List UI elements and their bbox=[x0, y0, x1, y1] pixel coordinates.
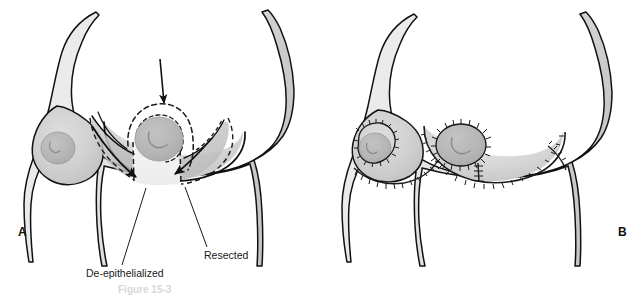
annotation-resected: Resected bbox=[204, 249, 249, 261]
annotation-de-epithelialized: De-epithelialized bbox=[86, 267, 164, 279]
figure-svg: De-epithelialized Resected A bbox=[0, 0, 637, 295]
panel-b: B bbox=[342, 12, 627, 266]
panel-label-b: B bbox=[618, 225, 627, 239]
panel-a: De-epithelialized Resected A bbox=[18, 10, 294, 279]
panel-label-a: A bbox=[18, 225, 27, 239]
figure-caption: Figure 15-3 bbox=[118, 284, 172, 295]
leader-de-epithelialized bbox=[122, 188, 146, 265]
leader-resected bbox=[185, 187, 207, 247]
superior-advancement-arrow bbox=[160, 59, 164, 103]
side-areola-a bbox=[41, 132, 75, 164]
medical-figure: De-epithelialized Resected A bbox=[0, 0, 637, 295]
main-areola-a bbox=[135, 117, 183, 161]
